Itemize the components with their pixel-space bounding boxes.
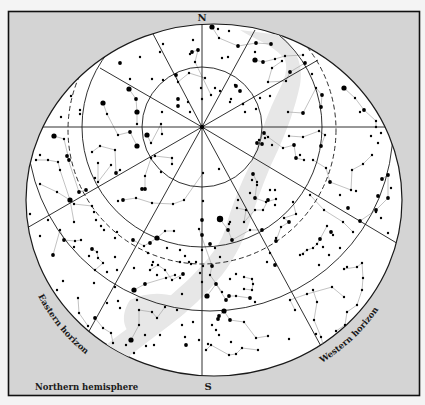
star	[237, 199, 239, 201]
star	[281, 60, 283, 62]
star	[269, 95, 271, 97]
star	[255, 141, 259, 145]
star	[303, 159, 305, 161]
star	[117, 134, 119, 136]
star	[187, 101, 189, 103]
star	[352, 231, 354, 233]
star	[164, 306, 166, 308]
star	[234, 84, 236, 86]
star	[257, 349, 259, 351]
star	[294, 309, 296, 311]
star	[134, 143, 139, 148]
star	[228, 354, 230, 356]
star	[204, 77, 206, 79]
star	[238, 89, 242, 93]
star	[284, 55, 286, 57]
star	[200, 218, 204, 222]
star	[121, 198, 125, 202]
star	[162, 79, 164, 81]
star	[201, 249, 203, 251]
star	[380, 217, 382, 219]
star	[114, 286, 116, 288]
star	[161, 111, 163, 113]
star	[150, 142, 152, 144]
star	[214, 87, 216, 89]
star	[386, 173, 390, 177]
star	[288, 70, 292, 74]
star	[59, 229, 61, 231]
star	[230, 238, 234, 242]
star	[387, 232, 389, 234]
star	[195, 261, 197, 263]
star	[181, 293, 183, 295]
star	[129, 78, 131, 80]
star	[318, 264, 320, 266]
star	[151, 78, 153, 80]
star	[251, 289, 253, 291]
star	[91, 151, 93, 153]
star	[103, 229, 105, 231]
star	[306, 293, 308, 295]
star	[265, 201, 267, 203]
star	[210, 344, 212, 346]
star	[143, 187, 147, 191]
star	[252, 57, 257, 62]
star	[248, 296, 252, 300]
star	[287, 111, 289, 113]
star	[292, 201, 294, 203]
star	[154, 235, 159, 240]
star	[224, 298, 228, 302]
star	[328, 180, 332, 184]
star	[110, 332, 112, 334]
star	[198, 339, 200, 341]
star	[235, 273, 237, 275]
star	[194, 61, 196, 63]
star	[312, 247, 314, 249]
star	[315, 87, 317, 89]
star	[93, 316, 97, 320]
star	[143, 245, 145, 247]
star	[267, 136, 269, 138]
star	[73, 246, 75, 248]
star	[375, 120, 377, 122]
star	[371, 154, 373, 156]
star	[148, 241, 152, 245]
star	[335, 330, 337, 332]
star	[218, 334, 220, 336]
star	[274, 58, 276, 60]
star	[251, 278, 253, 280]
star	[254, 209, 256, 211]
star	[156, 317, 158, 319]
star	[116, 269, 118, 271]
star	[214, 282, 218, 286]
star	[39, 183, 41, 185]
star	[295, 213, 297, 215]
star	[341, 85, 346, 90]
star	[116, 231, 118, 233]
star	[208, 242, 212, 246]
star	[356, 304, 358, 306]
zenith-point	[200, 125, 204, 129]
star	[198, 228, 200, 230]
star	[59, 169, 61, 171]
star	[355, 190, 357, 192]
star	[370, 135, 372, 137]
star	[189, 111, 191, 113]
star	[51, 253, 55, 257]
star	[77, 190, 81, 194]
star	[157, 264, 159, 266]
star	[315, 333, 317, 335]
star	[138, 324, 140, 326]
star	[255, 108, 257, 110]
star	[283, 217, 285, 219]
star	[312, 159, 314, 161]
star	[375, 211, 377, 213]
star	[218, 168, 220, 170]
star	[269, 252, 271, 254]
star	[90, 247, 94, 251]
star	[151, 202, 153, 204]
star	[159, 334, 161, 336]
star	[274, 204, 276, 206]
star	[217, 28, 219, 30]
star	[164, 269, 166, 271]
